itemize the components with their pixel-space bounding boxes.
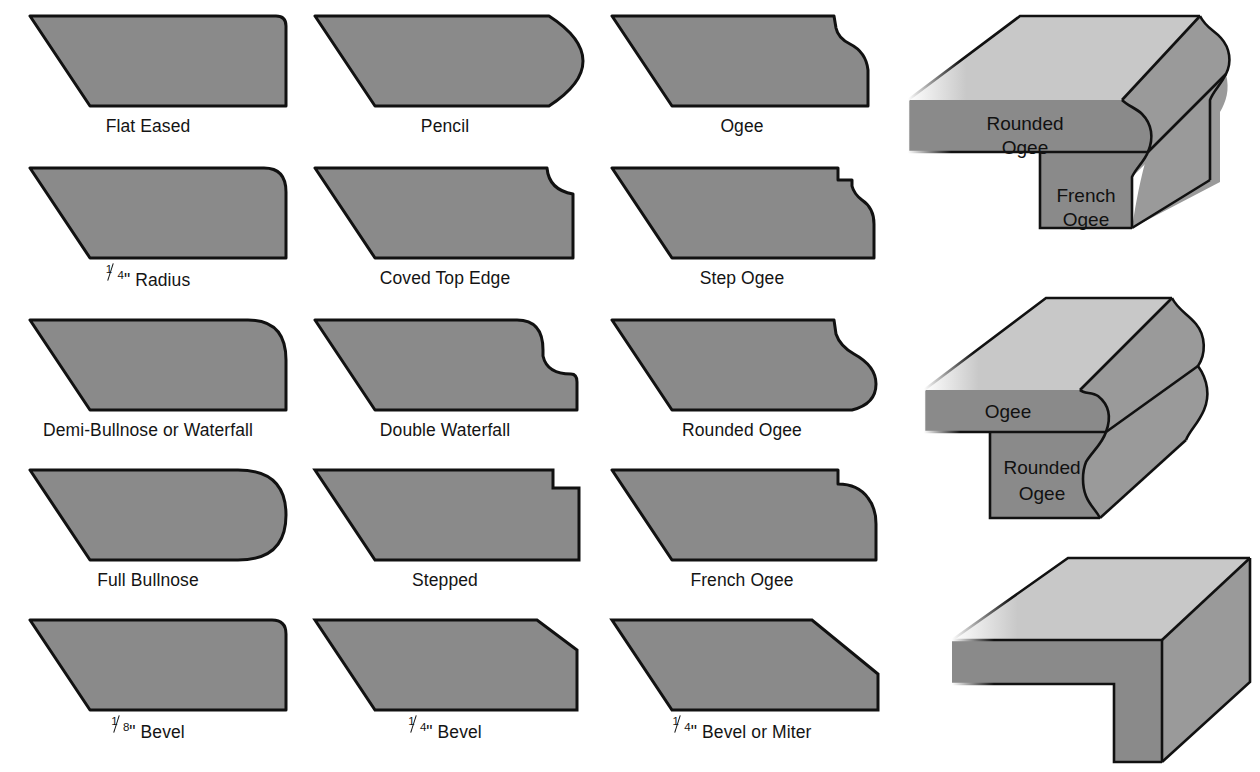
profile-shape-quarter-bevel-miter bbox=[594, 612, 890, 722]
profile-label-stepped: Stepped bbox=[297, 570, 593, 591]
isometric-illustration-column: Rounded Ogee French Ogee bbox=[890, 0, 1260, 772]
profile-label-text: French Ogee bbox=[690, 570, 793, 590]
isometric-figure-ogee-rounded-ogee[interactable]: Ogee Rounded Ogee bbox=[890, 274, 1260, 542]
iso1-caption-line-3: French bbox=[1056, 185, 1115, 206]
profile-shape-eighth-bevel bbox=[0, 612, 296, 722]
profile-shape-step-ogee bbox=[594, 160, 890, 270]
iso1-caption-line-2: Ogee bbox=[1002, 137, 1048, 158]
profile-label-demi-bullnose: Demi-Bullnose or Waterfall bbox=[0, 420, 296, 441]
profile-label-text: " Bevel or Miter bbox=[691, 722, 812, 742]
profile-label-text: Rounded Ogee bbox=[682, 420, 802, 440]
profile-label-text: " Radius bbox=[124, 270, 190, 290]
profile-grid: Flat Eased Pencil Ogee bbox=[0, 0, 890, 772]
profile-label-pencil: Pencil bbox=[297, 116, 593, 137]
fraction-one-quarter: 1 4 bbox=[106, 268, 124, 286]
profile-label-text: " Bevel bbox=[129, 722, 185, 742]
iso2-caption-line-3: Ogee bbox=[1019, 483, 1065, 504]
profile-card-quarter-bevel[interactable]: 1 4 " Bevel bbox=[297, 612, 593, 767]
profile-card-ogee[interactable]: Ogee bbox=[594, 8, 890, 163]
edge-profile-sheet: Flat Eased Pencil Ogee bbox=[0, 0, 1260, 772]
profile-shape-full-bullnose bbox=[0, 462, 296, 572]
profile-card-flat-eased[interactable]: Flat Eased bbox=[0, 8, 296, 163]
profile-card-coved-top-edge[interactable]: Coved Top Edge bbox=[297, 160, 593, 315]
iso1-caption-line-4: Ogee bbox=[1063, 209, 1109, 230]
profile-label-text: Double Waterfall bbox=[380, 420, 510, 440]
profile-label-flat-eased: Flat Eased bbox=[0, 116, 296, 137]
profile-card-demi-bullnose[interactable]: Demi-Bullnose or Waterfall bbox=[0, 312, 296, 467]
profile-card-stepped[interactable]: Stepped bbox=[297, 462, 593, 617]
isometric-figure-square-stepped[interactable] bbox=[890, 556, 1260, 772]
profile-shape-quarter-radius bbox=[0, 160, 296, 270]
fraction-denominator: 4 bbox=[117, 269, 124, 281]
profile-label-step-ogee: Step Ogee bbox=[594, 268, 890, 289]
profile-shape-quarter-bevel bbox=[297, 612, 593, 722]
fraction-one-quarter: 1 4 bbox=[408, 720, 426, 738]
profile-shape-demi-bullnose bbox=[0, 312, 296, 422]
iso1-caption-line-1: Rounded bbox=[986, 113, 1063, 134]
profile-label-french-ogee: French Ogee bbox=[594, 570, 890, 591]
profile-shape-stepped bbox=[297, 462, 593, 572]
fraction-one-eighth: 1 8 bbox=[111, 720, 129, 738]
fraction-denominator: 8 bbox=[123, 721, 130, 733]
isometric-figure-rounded-ogee-french-ogee[interactable]: Rounded Ogee French Ogee bbox=[890, 2, 1260, 260]
profile-label-eighth-bevel: 1 8 " Bevel bbox=[0, 720, 296, 743]
profile-card-step-ogee[interactable]: Step Ogee bbox=[594, 160, 890, 315]
fraction-denominator: 4 bbox=[684, 721, 691, 733]
profile-card-quarter-radius[interactable]: 1 4 " Radius bbox=[0, 160, 296, 315]
profile-label-text: " Bevel bbox=[426, 722, 482, 742]
profile-label-quarter-bevel: 1 4 " Bevel bbox=[297, 720, 593, 743]
profile-label-quarter-radius: 1 4 " Radius bbox=[0, 268, 296, 291]
profile-label-text: Flat Eased bbox=[106, 116, 191, 136]
fraction-denominator: 4 bbox=[420, 721, 427, 733]
profile-shape-coved-top-edge bbox=[297, 160, 593, 270]
profile-label-text: Step Ogee bbox=[700, 268, 785, 288]
profile-label-quarter-bevel-miter: 1 4 " Bevel or Miter bbox=[594, 720, 890, 743]
profile-label-text: Demi-Bullnose or Waterfall bbox=[43, 420, 253, 440]
profile-card-eighth-bevel[interactable]: 1 8 " Bevel bbox=[0, 612, 296, 767]
profile-label-text: Coved Top Edge bbox=[380, 268, 510, 288]
profile-label-text: Stepped bbox=[412, 570, 478, 590]
profile-shape-flat-eased bbox=[0, 8, 296, 118]
profile-label-coved-top-edge: Coved Top Edge bbox=[297, 268, 593, 289]
profile-card-rounded-ogee[interactable]: Rounded Ogee bbox=[594, 312, 890, 467]
iso2-caption-line-1: Ogee bbox=[985, 401, 1031, 422]
profile-label-rounded-ogee: Rounded Ogee bbox=[594, 420, 890, 441]
profile-card-french-ogee[interactable]: French Ogee bbox=[594, 462, 890, 617]
profile-card-quarter-bevel-miter[interactable]: 1 4 " Bevel or Miter bbox=[594, 612, 890, 767]
profile-label-text: Full Bullnose bbox=[97, 570, 199, 590]
profile-label-full-bullnose: Full Bullnose bbox=[0, 570, 296, 591]
profile-shape-pencil bbox=[297, 8, 593, 118]
iso3-front-face bbox=[952, 640, 1162, 762]
iso2-caption-line-2: Rounded bbox=[1003, 457, 1080, 478]
profile-card-double-waterfall[interactable]: Double Waterfall bbox=[297, 312, 593, 467]
fraction-one-quarter: 1 4 bbox=[673, 720, 691, 738]
profile-label-text: Pencil bbox=[421, 116, 469, 136]
profile-card-pencil[interactable]: Pencil bbox=[297, 8, 593, 163]
profile-shape-double-waterfall bbox=[297, 312, 593, 422]
profile-card-full-bullnose[interactable]: Full Bullnose bbox=[0, 462, 296, 617]
profile-label-double-waterfall: Double Waterfall bbox=[297, 420, 593, 441]
profile-shape-ogee bbox=[594, 8, 890, 118]
profile-label-ogee: Ogee bbox=[594, 116, 890, 137]
profile-shape-french-ogee bbox=[594, 462, 890, 572]
profile-shape-rounded-ogee bbox=[594, 312, 890, 422]
profile-label-text: Ogee bbox=[720, 116, 763, 136]
